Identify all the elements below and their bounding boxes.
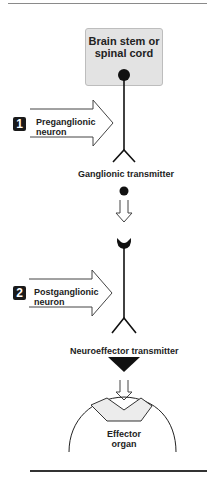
effector-receptor-icon bbox=[91, 398, 152, 421]
step-2-label-line1: Postganglionic bbox=[34, 287, 99, 297]
step-2-label: Postganglionic neuron bbox=[34, 287, 99, 307]
step-1-label-line1: Preganglionic bbox=[36, 117, 96, 127]
ganglionic-transmitter-icon bbox=[120, 187, 129, 196]
effector-label-line1: Effector bbox=[104, 429, 144, 439]
bottom-rule bbox=[30, 470, 207, 472]
ganglionic-transmitter-label: Ganglionic transmitter bbox=[78, 169, 174, 179]
step-1-label-line2: neuron bbox=[36, 127, 96, 137]
diagram-graphics bbox=[0, 0, 207, 477]
step-2-badge: 2 bbox=[13, 286, 26, 300]
ganglionic-receptor-icon bbox=[117, 238, 131, 249]
preganglionic-terminal-icon bbox=[113, 150, 135, 162]
step-1-badge: 1 bbox=[13, 117, 26, 131]
step-1-label: Preganglionic neuron bbox=[36, 117, 96, 137]
down-arrow-1-icon bbox=[116, 200, 132, 222]
effector-organ-label: Effector organ bbox=[104, 429, 144, 449]
postganglionic-terminal-icon bbox=[112, 318, 136, 333]
neuroeffector-transmitter-icon bbox=[108, 357, 140, 372]
effector-label-line2: organ bbox=[104, 439, 144, 449]
neuroeffector-transmitter-label: Neuroeffector transmitter bbox=[70, 346, 179, 356]
step-2-label-line2: neuron bbox=[34, 297, 99, 307]
autonomic-pathway-diagram: Brain stem or spinal cord 1 bbox=[0, 0, 207, 477]
